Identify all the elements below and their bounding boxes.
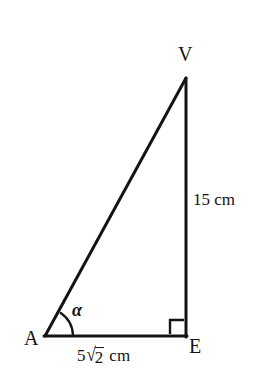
right-angle-marker — [170, 320, 184, 334]
radicand-value: 2 — [95, 347, 105, 366]
radical-sign-icon: √ — [87, 345, 96, 365]
geometry-figure: V A E α 15 cm 5√2cm — [0, 0, 258, 388]
radical-coefficient: 5 — [77, 347, 86, 364]
vertex-label-e: E — [189, 336, 201, 356]
hypotenuse-line — [45, 78, 186, 336]
vertex-label-v: V — [178, 44, 192, 64]
base-unit-label: cm — [109, 347, 130, 364]
side-length-label-base: 5√2cm — [77, 347, 130, 366]
radical-group: √2 — [87, 347, 105, 366]
side-length-label-vertical: 15 cm — [193, 191, 235, 208]
radical-expression: 5√2cm — [77, 347, 130, 366]
angle-label-alpha: α — [72, 301, 82, 319]
vertex-label-a: A — [24, 328, 38, 348]
